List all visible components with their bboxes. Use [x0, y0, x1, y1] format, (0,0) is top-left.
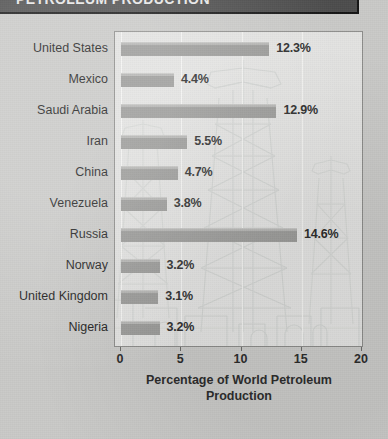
category-label-united-states: United States — [33, 33, 108, 64]
bar-venezuela — [121, 197, 167, 211]
bar-united-states — [121, 42, 269, 56]
bar-row: 4.4% — [115, 65, 362, 96]
category-axis-labels: United StatesMexicoSaudi ArabiaIranChina… — [0, 31, 108, 347]
tick-mark-20 — [361, 347, 362, 351]
bar-row: 12.9% — [115, 96, 362, 127]
category-label-norway: Norway — [66, 250, 108, 281]
bar-value-label: 3.2% — [167, 258, 195, 272]
category-label-mexico: Mexico — [68, 64, 108, 95]
category-label-united-kingdom: United Kingdom — [19, 281, 108, 312]
axis-caption: Percentage of World Petroleum Production — [104, 372, 374, 404]
page-title: PETROLEUM PRODUCTION — [16, 0, 210, 8]
bar-value-label: 4.4% — [181, 72, 209, 86]
bar-row: 4.7% — [115, 158, 362, 189]
bar-value-label: 14.6% — [304, 227, 338, 241]
bar-row: 12.3% — [115, 34, 362, 65]
category-label-nigeria: Nigeria — [68, 312, 108, 343]
bar-row: 3.1% — [115, 282, 362, 313]
tick-mark-15 — [301, 347, 302, 351]
bar-russia — [121, 228, 297, 242]
bar-nigeria — [121, 321, 160, 335]
bar-value-label: 12.9% — [283, 103, 317, 117]
category-label-russia: Russia — [70, 219, 108, 250]
bar-value-label: 12.3% — [276, 41, 310, 55]
category-label-iran: Iran — [86, 126, 108, 157]
bar-value-label: 3.2% — [167, 320, 195, 334]
bar-norway — [121, 259, 160, 273]
bar-value-label: 4.7% — [185, 165, 213, 179]
category-label-venezuela: Venezuela — [50, 188, 108, 219]
bar-value-label: 5.5% — [194, 134, 222, 148]
tick-mark-5 — [180, 347, 181, 351]
caption-line-2: Production — [104, 388, 374, 404]
bar-row: 3.8% — [115, 189, 362, 220]
tick-label-20: 20 — [354, 352, 368, 366]
category-label-china: China — [75, 157, 108, 188]
bar-row: 5.5% — [115, 127, 362, 158]
gridline-20 — [362, 32, 363, 346]
caption-line-1: Percentage of World Petroleum — [104, 372, 374, 388]
tick-label-15: 15 — [294, 352, 308, 366]
tick-label-10: 10 — [234, 352, 248, 366]
chart-plot-area: 12.3%4.4%12.9%5.5%4.7%3.8%14.6%3.2%3.1%3… — [114, 31, 363, 347]
value-axis: 05101520 — [114, 347, 363, 369]
category-label-saudi-arabia: Saudi Arabia — [37, 95, 108, 126]
bar-saudi-arabia — [121, 104, 276, 118]
bar-china — [121, 166, 178, 180]
tick-mark-10 — [241, 347, 242, 351]
tick-mark-0 — [120, 347, 121, 351]
bar-row: 14.6% — [115, 220, 362, 251]
bar-united-kingdom — [121, 290, 158, 304]
bar-value-label: 3.8% — [174, 196, 202, 210]
bar-row: 3.2% — [115, 313, 362, 344]
bar-row: 3.2% — [115, 251, 362, 282]
tick-label-0: 0 — [117, 352, 124, 366]
bar-rows: 12.3%4.4%12.9%5.5%4.7%3.8%14.6%3.2%3.1%3… — [115, 32, 362, 346]
chart-title-band: PETROLEUM PRODUCTION — [0, 0, 359, 14]
tick-label-5: 5 — [177, 352, 184, 366]
bar-value-label: 3.1% — [165, 289, 193, 303]
bar-mexico — [121, 73, 174, 87]
bar-iran — [121, 135, 187, 149]
